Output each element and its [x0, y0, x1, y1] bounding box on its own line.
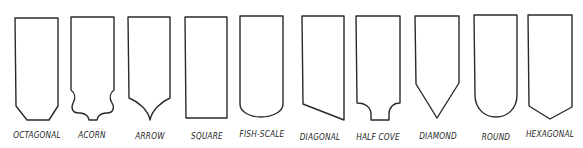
- half-cove-label: HALF COVE: [356, 132, 400, 142]
- shape-round: ROUND: [474, 15, 517, 142]
- hexagonal-label: HEXAGONAL: [526, 129, 574, 139]
- octagonal-label: OCTAGONAL: [13, 130, 61, 140]
- diamond-label: DIAMOND: [419, 131, 457, 141]
- round-outline: [474, 15, 517, 117]
- shape-diagonal: DIAGONAL: [300, 16, 344, 142]
- shape-square: SQUARE: [185, 17, 227, 141]
- shape-half-cove: HALF COVE: [356, 16, 400, 142]
- octagonal-outline: [15, 18, 58, 120]
- shape-fish-scale: FISH-SCALE: [240, 16, 285, 139]
- shape-hexagonal: HEXAGONAL: [526, 15, 574, 139]
- square-outline: [185, 17, 227, 118]
- hexagonal-outline: [528, 15, 572, 119]
- diagonal-label: DIAGONAL: [300, 132, 341, 142]
- square-label: SQUARE: [191, 131, 223, 141]
- shingle-shapes-diagram: OCTAGONAL ACORN ARROW SQUARE FISH-SCALE …: [0, 0, 583, 148]
- diamond-outline: [415, 16, 459, 118]
- half-cove-outline: [356, 16, 400, 120]
- acorn-label: ACORN: [77, 130, 106, 140]
- acorn-outline: [71, 17, 114, 120]
- shape-arrow: ARROW: [128, 17, 170, 141]
- shape-octagonal: OCTAGONAL: [13, 18, 61, 140]
- round-label: ROUND: [482, 132, 511, 142]
- arrow-outline: [128, 17, 170, 120]
- fish-scale-outline: [240, 16, 283, 117]
- arrow-label: ARROW: [134, 131, 165, 141]
- shape-acorn: ACORN: [71, 17, 114, 140]
- shape-diamond: DIAMOND: [415, 16, 459, 141]
- diagonal-outline: [302, 16, 344, 120]
- fish-scale-label: FISH-SCALE: [240, 129, 285, 139]
